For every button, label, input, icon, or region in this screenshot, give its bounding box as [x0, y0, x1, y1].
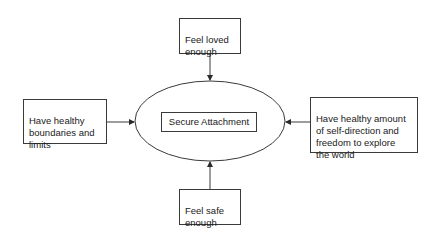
node-healthy-boundaries: Have healthy boundaries and limits	[23, 99, 107, 144]
center-node-secure-attachment: Secure Attachment	[161, 112, 257, 132]
node-self-direction: Have healthy amount of self-direction an…	[310, 97, 418, 153]
node-feel-safe: Feel safe enough	[179, 189, 241, 225]
node-feel-loved-label: Feel loved enough	[185, 34, 229, 57]
node-self-direction-label: Have healthy amount of self-direction an…	[316, 113, 406, 160]
node-feel-safe-label: Feel safe enough	[185, 205, 224, 228]
node-feel-loved: Feel loved enough	[179, 18, 241, 54]
center-node-label: Secure Attachment	[169, 116, 249, 127]
